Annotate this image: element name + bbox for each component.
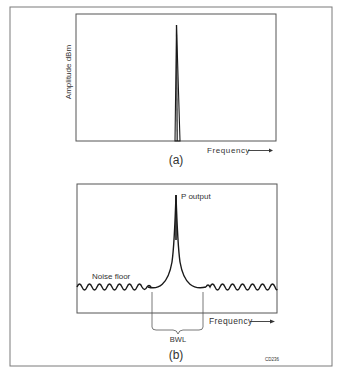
panel-a-y-axis-label: Amplitude dBm	[64, 45, 73, 100]
panel-a-frequency-arrow-icon	[248, 149, 273, 153]
figure-frame	[10, 7, 332, 366]
panel-b-bandwidth-label: BWL	[170, 335, 186, 344]
panel-b-noise-floor-right	[206, 284, 277, 290]
panel-b-noise-floor-label: Noise floor	[92, 272, 131, 281]
panel-b-noise-floor-left	[77, 284, 151, 290]
figure-code: CD236	[265, 357, 280, 362]
panel-b-peak-label: P output	[181, 192, 211, 201]
panel-b-frequency-arrow-icon	[250, 320, 275, 324]
spectrum-figure: Amplitude dBm Frequency (a) P output Noi…	[0, 0, 339, 372]
panel-b-plot-box	[77, 184, 277, 313]
panel-a-x-axis-label: Frequency	[207, 146, 250, 155]
panel-b-x-axis-label: Frequency	[209, 316, 253, 326]
panel-b-caption: (b)	[169, 348, 184, 362]
panel-a-caption: (a)	[169, 153, 184, 167]
panel-b: P output Noise floor BWL Frequency (b)	[77, 184, 277, 362]
panel-b-output-peak	[148, 195, 206, 288]
panel-a: Amplitude dBm Frequency (a)	[64, 14, 276, 167]
